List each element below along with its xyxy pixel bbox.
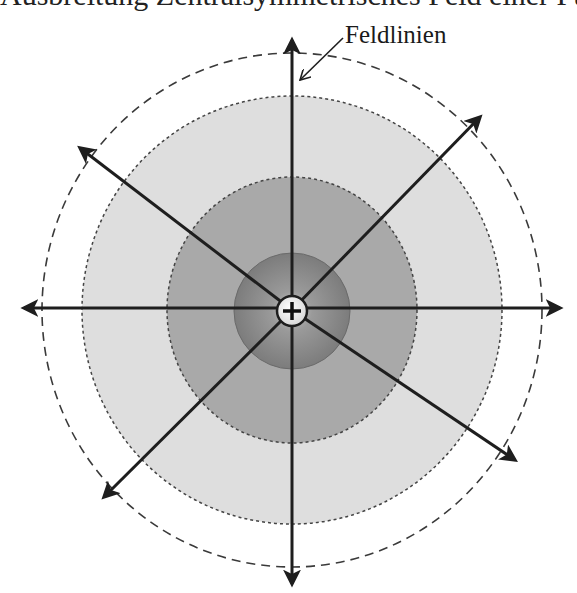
field-lines-label: Feldlinien	[345, 20, 446, 50]
label-pointer-arrow	[300, 38, 343, 80]
positive-charge	[277, 296, 307, 326]
diagram-canvas: Ausbreitung Zentralsymmetrisches Feld ei…	[0, 0, 577, 593]
electric-field-diagram	[0, 0, 577, 593]
